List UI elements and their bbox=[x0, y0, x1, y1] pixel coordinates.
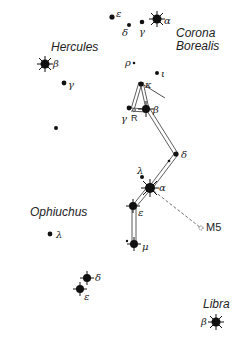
star-label: μ bbox=[142, 242, 149, 252]
star-chart: CoronaBorealis Hercules Ophiuchus Libra … bbox=[0, 0, 242, 340]
star-label: δ bbox=[95, 273, 101, 283]
r-crb-variable-star bbox=[133, 109, 136, 112]
star-label: ε bbox=[116, 9, 121, 19]
label-libra: Libra bbox=[203, 298, 230, 311]
star-label: α bbox=[164, 16, 171, 26]
star-label: β bbox=[153, 105, 159, 115]
label-corona-borealis: CoronaBorealis bbox=[176, 27, 219, 53]
m5-pointer-line bbox=[150, 188, 201, 228]
star-label: γ bbox=[139, 27, 145, 37]
star-label: β bbox=[201, 317, 207, 327]
star-label: λ bbox=[137, 166, 143, 176]
star-label: ε bbox=[84, 292, 89, 302]
star-label: R bbox=[131, 113, 138, 123]
label-m5: M5 bbox=[206, 221, 221, 233]
label-ophiuchus: Ophiuchus bbox=[30, 206, 87, 219]
star-label: δ bbox=[181, 150, 187, 160]
star-label: δ bbox=[122, 28, 128, 38]
star-label: λ bbox=[56, 230, 62, 240]
label-hercules: Hercules bbox=[51, 41, 98, 54]
star-label: γ bbox=[121, 114, 127, 124]
star-label: ε bbox=[138, 208, 143, 218]
star-label: γ bbox=[68, 80, 74, 90]
star-label: ρ bbox=[125, 58, 131, 68]
star-label: κ bbox=[145, 80, 152, 90]
star-label: ι bbox=[161, 69, 165, 79]
star-label: β bbox=[53, 59, 59, 69]
star-label: α bbox=[159, 183, 166, 193]
